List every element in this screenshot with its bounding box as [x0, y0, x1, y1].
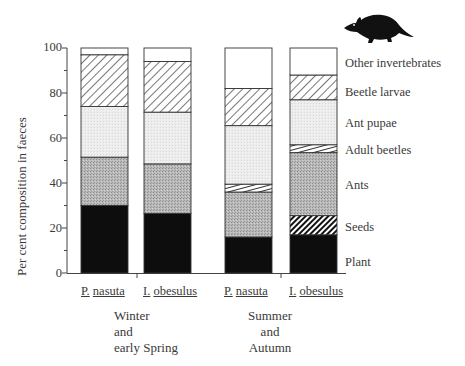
- bar-segment-plant: [290, 235, 337, 273]
- bar-segment-beetle-larvae: [81, 55, 128, 107]
- bar-stack: [225, 48, 272, 273]
- bar-segment-plant: [144, 213, 191, 273]
- bar-segment-ants: [290, 153, 337, 216]
- y-tick-label: 60: [34, 131, 62, 146]
- y-tick-label: 80: [34, 86, 62, 101]
- bar-segment-plant: [225, 237, 272, 273]
- x-category-label: P. nasuta: [224, 284, 268, 299]
- bar-segment-ant-pupae: [144, 112, 191, 164]
- stacked-bar-chart: [0, 0, 465, 366]
- bar-segment-other-invertebrates: [225, 48, 272, 89]
- bar-segment-ant-pupae: [290, 100, 337, 145]
- bar-segment-beetle-larvae: [290, 75, 337, 100]
- bar-segment-beetle-larvae: [144, 62, 191, 113]
- x-category-label: I. obesulus: [289, 284, 343, 299]
- legend-plant: Plant: [345, 255, 371, 270]
- bar-segment-ants: [225, 192, 272, 237]
- legend-other-invertebrates: Other invertebrates: [345, 56, 441, 71]
- bar-segment-plant: [81, 206, 128, 274]
- legend-ant-pupae: Ant pupae: [345, 116, 397, 131]
- bar-segment-other-invertebrates: [144, 48, 191, 62]
- y-tick-label: 100: [34, 40, 62, 55]
- bar-segment-beetle-larvae: [225, 89, 272, 126]
- legend-seeds: Seeds: [345, 220, 374, 235]
- bar-segment-adult-beetles: [225, 184, 272, 192]
- legend-beetle-larvae: Beetle larvae: [345, 85, 411, 100]
- group-label-summer: Summer and Autumn: [240, 308, 300, 356]
- bar-stack: [290, 48, 337, 273]
- bar-stack: [81, 48, 128, 273]
- group-label-winter: Winter and early Spring: [114, 308, 178, 356]
- bars: [81, 48, 337, 273]
- bar-segment-adult-beetles: [290, 145, 337, 153]
- y-tick-label: 0: [34, 266, 62, 281]
- bar-segment-other-invertebrates: [290, 48, 337, 75]
- x-category-label: P. nasuta: [81, 284, 125, 299]
- y-axis-label: Per cent composition in faeces: [14, 117, 30, 276]
- y-tick-label: 40: [34, 176, 62, 191]
- bar-segment-ants: [81, 157, 128, 205]
- bar-segment-ant-pupae: [225, 126, 272, 185]
- legend-adult-beetles: Adult beetles: [345, 143, 411, 158]
- bar-stack: [144, 48, 191, 273]
- y-tick-label: 20: [34, 221, 62, 236]
- x-category-label: I. obesulus: [143, 284, 197, 299]
- bar-segment-other-invertebrates: [81, 48, 128, 55]
- bar-segment-seeds: [290, 216, 337, 235]
- bandicoot-silhouette-icon: [344, 15, 414, 43]
- legend-ants: Ants: [345, 178, 369, 193]
- bar-segment-ant-pupae: [81, 107, 128, 158]
- bar-segment-ants: [144, 164, 191, 214]
